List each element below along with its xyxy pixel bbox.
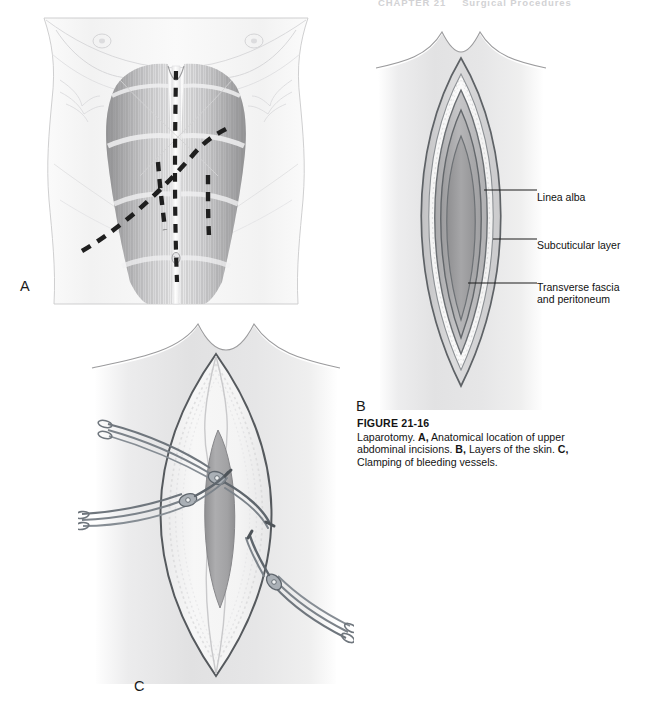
caption-lead: Laparotomy. [357, 431, 418, 443]
figure-caption-body: Laparotomy. A, Anatomical location of up… [357, 431, 609, 469]
label-transverse-fascia: Transverse fascia [537, 281, 619, 294]
panel-c-clamping-vessels [78, 312, 354, 684]
caption-marker-b: B, [455, 443, 466, 455]
running-head-chapter: CHAPTER 21 [378, 0, 446, 8]
figure-number: FIGURE 21-16 [357, 417, 609, 430]
running-head: CHAPTER 21Surgical Procedures [378, 0, 648, 9]
panel-a-anatomical-locations [16, 14, 334, 306]
panel-b-skin-layers [368, 18, 554, 410]
label-linea-alba: Linea alba [537, 191, 585, 204]
figure-caption: FIGURE 21-16 Laparotomy. A, Anatomical l… [357, 417, 609, 468]
caption-text-b: Layers of the skin. [466, 443, 558, 455]
running-head-title: Surgical Procedures [462, 0, 572, 8]
caption-marker-a: A, [418, 431, 429, 443]
panel-letter-b: B [356, 398, 366, 414]
figure-page: CHAPTER 21Surgical Procedures [0, 0, 661, 725]
panel-letter-a: A [20, 278, 30, 294]
linea-alba-strip [171, 66, 180, 304]
label-subcuticular-layer: Subcuticular layer [537, 239, 620, 252]
caption-text-c: Clamping of bleeding vessels. [357, 456, 498, 468]
caption-marker-c: C, [558, 443, 569, 455]
label-transverse-fascia-line2: and peritoneum [537, 293, 610, 306]
panel-letter-c: C [134, 678, 144, 694]
